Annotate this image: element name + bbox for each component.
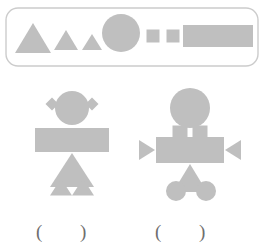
large-rectangle-shape bbox=[183, 25, 253, 47]
figure-left bbox=[35, 91, 109, 196]
head-circle-shape bbox=[55, 91, 89, 125]
head-circle-shape bbox=[170, 88, 210, 128]
answer-slot-left-open-paren[interactable]: ( bbox=[36, 222, 42, 241]
figure-right bbox=[139, 88, 241, 201]
answer-slot-right-close-paren[interactable]: ) bbox=[199, 222, 205, 241]
large-leg-triangle-shape bbox=[50, 153, 94, 187]
answer-slot-right-open-paren[interactable]: ( bbox=[155, 222, 161, 241]
right-arm-triangle-shape bbox=[225, 140, 241, 160]
worksheet-root: ()() bbox=[0, 0, 264, 250]
shapes-canvas bbox=[0, 0, 264, 250]
small-square-shape bbox=[167, 30, 180, 43]
left-arm-triangle-shape bbox=[139, 140, 155, 160]
body-rectangle-shape bbox=[35, 128, 109, 152]
small-square-shape bbox=[147, 30, 160, 43]
left-foot-circle-shape bbox=[166, 181, 186, 201]
right-foot-circle-shape bbox=[196, 181, 216, 201]
shape-legend-bar bbox=[6, 8, 258, 66]
body-rectangle-shape bbox=[156, 137, 224, 163]
answer-slot-left-close-paren[interactable]: ) bbox=[80, 222, 86, 241]
large-circle-shape bbox=[102, 14, 140, 52]
